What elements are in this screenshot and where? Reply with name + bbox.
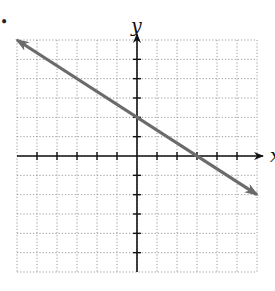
axis-labels: xy: [130, 14, 275, 166]
y-axis-label: y: [130, 14, 142, 36]
axes: [17, 34, 263, 272]
x-axis-label: x: [270, 144, 275, 166]
coordinate-plane: xy: [0, 0, 275, 291]
